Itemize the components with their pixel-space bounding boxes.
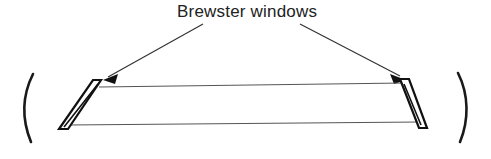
brewster-window-right-outline — [400, 79, 427, 128]
mirror-left-icon — [24, 74, 33, 142]
leader-right — [300, 24, 406, 84]
beam-upper-line — [99, 83, 404, 87]
page-title: Brewster windows — [177, 2, 317, 21]
diagram-canvas: Brewster windows — [0, 0, 491, 159]
brewster-window-left-inner-edge — [64, 84, 98, 127]
brewster-window-left — [59, 80, 101, 129]
mirror-right-icon — [458, 73, 467, 142]
leader-left-line — [108, 24, 203, 77]
leader-right-line — [300, 24, 400, 76]
leader-left — [103, 24, 203, 84]
brewster-windows-diagram: Brewster windows — [0, 0, 491, 159]
brewster-window-right — [400, 79, 427, 128]
beam-lower-line — [68, 122, 420, 125]
